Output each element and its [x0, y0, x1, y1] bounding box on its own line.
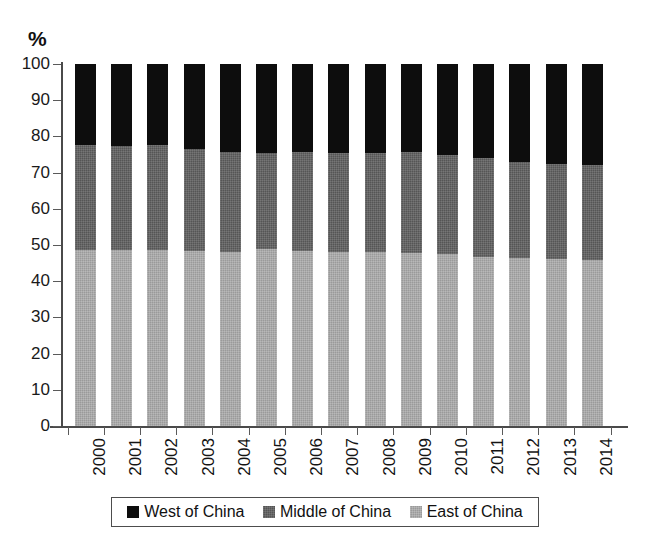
- x-axis-label-2000: 2000: [91, 438, 108, 508]
- bar-segment-east-2001[interactable]: [111, 250, 132, 426]
- bar-segment-east-2007[interactable]: [328, 252, 349, 426]
- bar-segment-west-2000[interactable]: [75, 64, 96, 145]
- bar-2012[interactable]: [509, 64, 530, 426]
- bar-2000[interactable]: [75, 64, 96, 426]
- bar-segment-west-2012[interactable]: [509, 64, 530, 162]
- x-tick-5: [249, 427, 250, 435]
- bar-segment-east-2004[interactable]: [220, 252, 241, 426]
- bar-segment-middle-2012[interactable]: [509, 162, 530, 258]
- y-tick-90: [53, 100, 61, 101]
- y-tick-label-90: 90: [4, 91, 50, 108]
- bar-segment-west-2013[interactable]: [546, 64, 567, 164]
- bar-segment-middle-2014[interactable]: [582, 165, 603, 260]
- bar-2011[interactable]: [473, 64, 494, 426]
- bar-segment-east-2008[interactable]: [365, 252, 386, 426]
- bar-segment-middle-2010[interactable]: [437, 155, 458, 255]
- bar-segment-west-2003[interactable]: [184, 64, 205, 149]
- bar-2004[interactable]: [220, 64, 241, 426]
- bar-segment-west-2006[interactable]: [292, 64, 313, 152]
- bar-segment-middle-2006[interactable]: [292, 152, 313, 250]
- legend-swatch-west: [127, 506, 139, 518]
- x-axis-line: [50, 426, 628, 428]
- bar-2001[interactable]: [111, 64, 132, 426]
- bar-2010[interactable]: [437, 64, 458, 426]
- bar-segment-west-2005[interactable]: [256, 64, 277, 153]
- bar-2005[interactable]: [256, 64, 277, 426]
- y-tick-70: [53, 173, 61, 174]
- y-tick-30: [53, 317, 61, 318]
- y-tick-label-100: 100: [4, 55, 50, 72]
- x-axis-label-2013: 2013: [562, 438, 579, 508]
- bar-segment-east-2006[interactable]: [292, 251, 313, 426]
- bar-segment-middle-2000[interactable]: [75, 145, 96, 250]
- bar-segment-west-2009[interactable]: [401, 64, 422, 152]
- bar-segment-middle-2001[interactable]: [111, 146, 132, 250]
- x-tick-9: [393, 427, 394, 435]
- plot-area: [62, 64, 618, 426]
- bar-2006[interactable]: [292, 64, 313, 426]
- bar-segment-west-2010[interactable]: [437, 64, 458, 155]
- bar-segment-middle-2002[interactable]: [147, 145, 168, 250]
- stacked-bar-chart: % 0102030405060708090100 200020012002200…: [0, 0, 650, 547]
- x-tick-8: [357, 427, 358, 435]
- bar-segment-west-2004[interactable]: [220, 64, 241, 152]
- y-tick-40: [53, 281, 61, 282]
- bar-2002[interactable]: [147, 64, 168, 426]
- bar-segment-west-2001[interactable]: [111, 64, 132, 146]
- bar-segment-east-2009[interactable]: [401, 253, 422, 426]
- bar-2013[interactable]: [546, 64, 567, 426]
- bar-segment-west-2011[interactable]: [473, 64, 494, 158]
- legend-item-east[interactable]: East of China: [410, 504, 523, 520]
- chart-legend: West of China Middle of China East of Ch…: [111, 497, 539, 527]
- bar-2009[interactable]: [401, 64, 422, 426]
- x-tick-15: [611, 427, 612, 435]
- bar-segment-east-2005[interactable]: [256, 249, 277, 426]
- bar-segment-middle-2003[interactable]: [184, 149, 205, 250]
- bar-segment-west-2002[interactable]: [147, 64, 168, 145]
- bar-2014[interactable]: [582, 64, 603, 426]
- bar-segment-middle-2005[interactable]: [256, 153, 277, 249]
- bar-2008[interactable]: [365, 64, 386, 426]
- x-tick-13: [538, 427, 539, 435]
- bar-segment-west-2014[interactable]: [582, 64, 603, 165]
- legend-item-middle[interactable]: Middle of China: [263, 504, 391, 520]
- bar-segment-east-2014[interactable]: [582, 260, 603, 426]
- bar-segment-west-2008[interactable]: [365, 64, 386, 153]
- bar-segment-east-2002[interactable]: [147, 250, 168, 426]
- bar-segment-middle-2009[interactable]: [401, 152, 422, 253]
- bar-segment-east-2013[interactable]: [546, 259, 567, 426]
- bar-segment-middle-2008[interactable]: [365, 153, 386, 252]
- bar-2003[interactable]: [184, 64, 205, 426]
- bar-segment-middle-2013[interactable]: [546, 164, 567, 259]
- x-tick-10: [430, 427, 431, 435]
- y-tick-label-20: 20: [4, 345, 50, 362]
- bar-segment-east-2010[interactable]: [437, 254, 458, 426]
- x-tick-7: [321, 427, 322, 435]
- y-tick-50: [53, 245, 61, 246]
- y-tick-label-30: 30: [4, 308, 50, 325]
- legend-label-east: East of China: [427, 504, 523, 520]
- bar-segment-middle-2007[interactable]: [328, 153, 349, 251]
- y-tick-label-80: 80: [4, 127, 50, 144]
- x-tick-4: [212, 427, 213, 435]
- x-tick-1: [104, 427, 105, 435]
- x-tick-3: [176, 427, 177, 435]
- y-tick-20: [53, 354, 61, 355]
- legend-swatch-middle: [263, 506, 275, 518]
- legend-item-west[interactable]: West of China: [127, 504, 244, 520]
- bar-segment-west-2007[interactable]: [328, 64, 349, 153]
- bar-segment-middle-2011[interactable]: [473, 158, 494, 256]
- bar-segment-east-2000[interactable]: [75, 250, 96, 426]
- x-tick-6: [285, 427, 286, 435]
- bar-segment-east-2012[interactable]: [509, 258, 530, 426]
- x-tick-12: [502, 427, 503, 435]
- y-axis-unit-label: %: [28, 28, 47, 49]
- bar-segment-east-2011[interactable]: [473, 257, 494, 426]
- bar-segment-east-2003[interactable]: [184, 251, 205, 426]
- bar-2007[interactable]: [328, 64, 349, 426]
- bar-segment-middle-2004[interactable]: [220, 152, 241, 252]
- x-tick-11: [466, 427, 467, 435]
- y-tick-0: [53, 426, 61, 427]
- y-tick-label-50: 50: [4, 236, 50, 253]
- x-tick-2: [140, 427, 141, 435]
